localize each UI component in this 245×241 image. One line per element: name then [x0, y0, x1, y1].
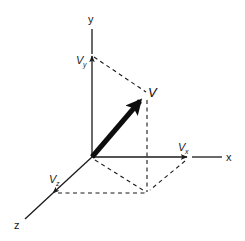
- vector-v-label: V: [148, 85, 158, 100]
- y-axis-label: y: [88, 13, 94, 25]
- dash-vy-to-v: [94, 57, 146, 92]
- z-axis-label: z: [14, 219, 20, 231]
- vy-label: V y: [76, 54, 87, 69]
- z-component-arrow: [53, 157, 92, 193]
- dash-vx-to-floor: [150, 161, 185, 190]
- vx-label: V x: [178, 141, 189, 155]
- vector-diagram: y x z V V y V x V z: [0, 0, 245, 241]
- dash-origin-to-floor: [95, 160, 146, 192]
- z-axis-outer: [25, 193, 53, 219]
- vy-label-sub: y: [82, 61, 87, 69]
- vz-label-sub: z: [55, 180, 60, 187]
- vz-label: V z: [49, 173, 60, 187]
- x-axis-label: x: [226, 151, 232, 163]
- vx-label-sub: x: [184, 148, 189, 155]
- vector-v-arrow: [92, 101, 140, 157]
